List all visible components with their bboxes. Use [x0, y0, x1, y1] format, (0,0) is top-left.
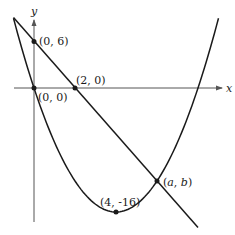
label-2-0: (2, 0) [76, 74, 106, 87]
point-vertex [114, 210, 119, 215]
label-intersection: (a, b) [163, 176, 192, 189]
graph-canvas: x y (0, 6) (0, 0) (2, 0) (4, -16) (a, b) [0, 0, 235, 235]
label-vertex: (4, -16) [100, 196, 140, 209]
label-0-0: (0, 0) [38, 91, 68, 104]
point-intersection [155, 179, 160, 184]
label-0-6: (0, 6) [39, 35, 69, 48]
point-0-6 [32, 39, 37, 44]
graph-diagram: x y (0, 6) (0, 0) (2, 0) (4, -16) (a, b) [0, 0, 235, 235]
y-axis-label: y [30, 5, 38, 18]
point-origin [32, 86, 37, 91]
x-axis-label: x [226, 82, 233, 95]
